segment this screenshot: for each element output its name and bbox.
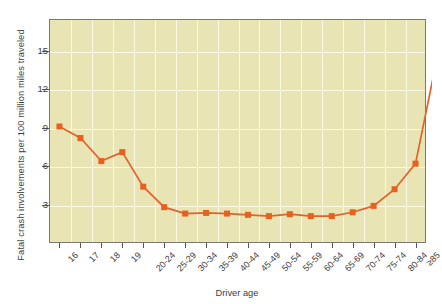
- x-axis-tick-label: 19: [129, 250, 143, 264]
- x-axis-tick-label: 18: [108, 250, 122, 264]
- x-axis-tick: [248, 243, 249, 248]
- x-axis-tick-label: 45-49: [259, 250, 282, 273]
- x-axis-tick: [416, 243, 417, 248]
- x-axis-tick-label: 25-29: [175, 250, 198, 273]
- grid-line-vertical: [134, 20, 135, 242]
- x-axis-tick: [269, 243, 270, 248]
- grid-line-horizontal: [50, 52, 425, 53]
- grid-line-vertical: [155, 20, 156, 242]
- grid-line-horizontal: [50, 129, 425, 130]
- grid-line-vertical: [301, 20, 302, 242]
- grid-line-vertical: [259, 20, 260, 242]
- x-axis-tick: [290, 243, 291, 248]
- x-axis-tick-label: ≥85: [424, 250, 442, 268]
- grid-line-vertical: [280, 20, 281, 242]
- x-axis-tick: [332, 243, 333, 248]
- x-axis-tick-label: 16: [66, 250, 80, 264]
- x-axis-tick: [164, 243, 165, 248]
- y-axis-tick-label: 15: [22, 45, 48, 56]
- grid-line-vertical: [197, 20, 198, 242]
- x-axis-tick-label: 60-64: [322, 250, 345, 273]
- y-axis-tick-label: 3: [22, 199, 48, 210]
- grid-line-vertical: [385, 20, 386, 242]
- x-axis-tick-label: 70-74: [363, 250, 386, 273]
- y-axis-tick-label: 6: [22, 160, 48, 171]
- y-axis-tick-label: 12: [22, 83, 48, 94]
- grid-line-vertical: [218, 20, 219, 242]
- x-axis-tick-label: 50-54: [280, 250, 303, 273]
- x-axis-tick: [227, 243, 228, 248]
- x-axis-tick: [206, 243, 207, 248]
- x-axis-title: Driver age: [48, 288, 426, 298]
- x-axis-tick-label: 20-24: [154, 250, 177, 273]
- x-axis-tick: [395, 243, 396, 248]
- x-axis-tick: [80, 243, 81, 248]
- x-axis-tick: [353, 243, 354, 248]
- grid-line-vertical: [239, 20, 240, 242]
- grid-line-vertical: [322, 20, 323, 242]
- grid-line-vertical: [71, 20, 72, 242]
- x-axis-tick-label: 65-69: [342, 250, 365, 273]
- x-axis-tick-label: 17: [87, 250, 101, 264]
- x-axis-tick: [143, 243, 144, 248]
- grid-line-vertical: [343, 20, 344, 242]
- x-axis-tick: [311, 243, 312, 248]
- grid-line-vertical: [364, 20, 365, 242]
- x-axis-tick-label: 35-39: [217, 250, 240, 273]
- plot-area: [49, 19, 426, 243]
- y-axis-tick-label: 9: [22, 122, 48, 133]
- x-axis-tick-label: 40-44: [238, 250, 261, 273]
- x-axis-tick: [185, 243, 186, 248]
- grid-line-vertical: [176, 20, 177, 242]
- grid-line-vertical: [113, 20, 114, 242]
- x-axis-tick: [59, 243, 60, 248]
- x-axis-tick-label: 30-34: [196, 250, 219, 273]
- x-axis-tick: [374, 243, 375, 248]
- grid-line-horizontal: [50, 167, 425, 168]
- x-axis-tick-label: 55-59: [301, 250, 324, 273]
- grid-line-vertical: [406, 20, 407, 242]
- grid-line-horizontal: [50, 90, 425, 91]
- grid-line-horizontal: [50, 206, 425, 207]
- x-axis-tick: [101, 243, 102, 248]
- x-axis-tick: [122, 243, 123, 248]
- x-axis-tick-label: 75-74: [384, 250, 407, 273]
- grid-line-vertical: [92, 20, 93, 242]
